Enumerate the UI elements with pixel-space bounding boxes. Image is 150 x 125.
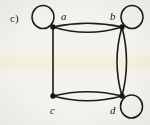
vertex-label-a: a xyxy=(61,11,67,22)
edge-b-d-left xyxy=(117,27,122,96)
vertex-label-c: c xyxy=(50,105,55,116)
edge-b-d-right xyxy=(122,27,127,96)
edge-c-d-upper xyxy=(53,92,122,96)
panel-label: c) xyxy=(10,13,19,24)
loop-b-icon xyxy=(121,6,143,29)
vertex-b-dot xyxy=(119,24,124,29)
edge-a-b-lower xyxy=(53,27,122,32)
edge-group xyxy=(53,23,127,101)
edge-c-d-lower xyxy=(53,96,122,101)
vertex-label-b: b xyxy=(110,11,116,22)
vertex-c-dot xyxy=(50,93,55,98)
edge-a-b-upper xyxy=(53,23,122,27)
vertex-group xyxy=(50,24,124,98)
loop-d-icon xyxy=(121,95,143,118)
graph-figure: c) a b c d xyxy=(0,0,150,125)
loop-a-icon xyxy=(32,6,54,29)
graph-drawing xyxy=(0,0,150,125)
vertex-d-dot xyxy=(119,93,124,98)
vertex-a-dot xyxy=(50,24,55,29)
vertex-label-d: d xyxy=(110,105,116,116)
